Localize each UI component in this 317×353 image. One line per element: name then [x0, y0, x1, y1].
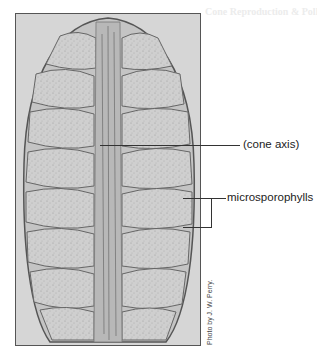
microsporophylls-label: microsporophylls	[227, 191, 313, 203]
microsporophylls-bracket-vertical	[211, 198, 212, 228]
cone-section-illustration	[16, 14, 200, 345]
bleed-through-heading: Cone Reproduction & Pollen Cones	[205, 6, 317, 17]
pollen-cone-micrograph	[15, 13, 201, 346]
microsporophylls-bracket-bottom	[183, 227, 211, 228]
cone-axis-label: (cone axis)	[243, 138, 299, 150]
photo-credit: Photo by J. W. Perry.	[206, 280, 213, 345]
microsporophylls-bracket-top	[183, 198, 226, 199]
cone-axis-leader-line	[100, 145, 240, 146]
